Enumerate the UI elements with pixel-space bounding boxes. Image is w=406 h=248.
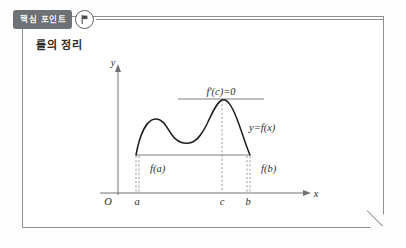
page-title: 롤의 정리	[36, 36, 82, 52]
figure-page: 핵심 포인트 롤의 정리	[0, 0, 406, 248]
header-rule	[96, 19, 384, 20]
badge-chip: 핵심 포인트	[14, 11, 71, 28]
badge-label: 핵심 포인트	[20, 15, 67, 24]
flag-circle-icon	[75, 10, 94, 29]
header-badge: 핵심 포인트	[14, 9, 94, 29]
